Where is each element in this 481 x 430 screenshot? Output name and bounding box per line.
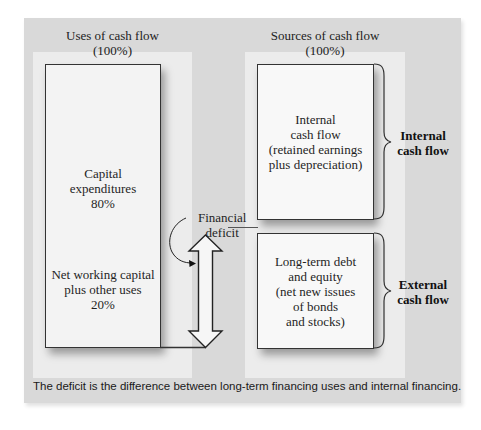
external-cash-flow-brace-label: External cash flow [393,277,453,307]
internal-label-line1: Internal [393,128,453,143]
internal-cash-flow-box: Internal cash flow (retained earnings pl… [257,64,374,220]
external-box-line5: and stocks) [286,314,345,329]
external-box-line1: Long-term debt [275,254,356,269]
internal-cash-flow-brace-label: Internal cash flow [393,128,453,158]
external-box-line2: and equity [288,269,343,284]
external-financing-box: Long-term debt and equity (net new issue… [257,233,374,349]
internal-box-line4: plus depreciation) [269,157,363,172]
capex-line2: expenditures [46,181,160,196]
sources-title-text: Sources of cash flow [245,28,405,43]
capex-percent: 80% [46,196,160,211]
capex-line1: Capital [46,166,160,181]
net-working-capital-label: Net working capital plus other uses 20% [46,267,160,312]
external-box-line3: (net new issues [276,284,355,299]
internal-label-line2: cash flow [393,143,453,158]
internal-box-line3: (retained earnings [269,142,362,157]
internal-box-line1: Internal [295,112,335,127]
figure-caption: The deficit is the difference between lo… [33,380,458,392]
uses-title-percent: (100%) [33,43,192,58]
external-label-line1: External [393,277,453,292]
capital-expenditures-label: Capital expenditures 80% [46,166,160,211]
sources-column-title: Sources of cash flow (100%) [245,28,405,58]
deficit-line1: Financial [198,210,246,225]
financial-deficit-label: Financial deficit [198,210,246,240]
sources-title-percent: (100%) [245,43,405,58]
deficit-line2: deficit [198,225,246,240]
nwc-line2: plus other uses [46,282,160,297]
nwc-percent: 20% [46,297,160,312]
uses-title-text: Uses of cash flow [33,28,192,43]
external-label-line2: cash flow [393,292,453,307]
uses-column-title: Uses of cash flow (100%) [33,28,192,58]
nwc-line1: Net working capital [46,267,160,282]
external-box-line4: of bonds [293,299,338,314]
uses-of-cash-box: Capital expenditures 80% Net working cap… [45,64,161,348]
internal-box-line2: cash flow [290,127,340,142]
